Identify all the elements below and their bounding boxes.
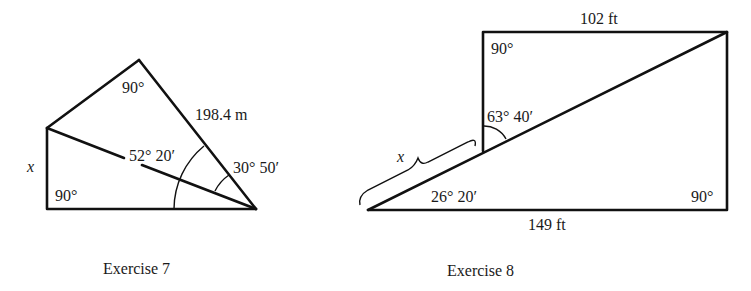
- ex7-diagonal-edge-a: [47, 128, 124, 158]
- ex8-top-left-angle-label: 90°: [491, 40, 513, 57]
- ex7-angle-arc-large: [174, 146, 204, 209]
- ex8-bottom-right-angle-label: 90°: [691, 188, 713, 205]
- ex7-angle-arc-small: [215, 175, 229, 191]
- ex8-unknown-x-label: x: [396, 148, 404, 165]
- ex7-right-angle-label: 90°: [55, 187, 77, 204]
- ex7-top-angle-label: 90°: [122, 79, 144, 96]
- ex8-angle-arc: [483, 126, 506, 139]
- ex7-unknown-x-label: x: [26, 158, 34, 175]
- ex7-outer-angle-label: 30° 50′: [233, 159, 279, 176]
- ex8-diagonal-edge: [368, 32, 727, 210]
- ex8-bottom-length-label: 149 ft: [528, 216, 566, 233]
- diagram-canvas: 90° 198.4 m 52° 20′ 30° 50′ x 90° 102 ft…: [0, 0, 751, 291]
- ex7-hypotenuse-label: 198.4 m: [195, 106, 248, 123]
- ex8-lower-angle-label: 26° 20′: [431, 188, 477, 205]
- ex8-caption: Exercise 8: [447, 262, 514, 279]
- ex8-top-length-label: 102 ft: [580, 10, 618, 27]
- ex7-inner-angle-label: 52° 20′: [129, 147, 175, 164]
- ex7-caption: Exercise 7: [103, 260, 170, 277]
- exercise-7-figure: 90° 198.4 m 52° 20′ 30° 50′ x 90°: [26, 60, 279, 209]
- exercise-8-figure: 102 ft 90° 63° 40′ x 26° 20′ 90° 149 ft: [360, 10, 727, 233]
- ex8-upper-angle-label: 63° 40′: [487, 108, 533, 125]
